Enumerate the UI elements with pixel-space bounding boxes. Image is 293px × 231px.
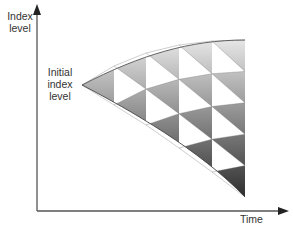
tree-diagram [0, 0, 293, 231]
x-axis-label: Time [240, 213, 263, 225]
y-axis-label: Index level [3, 10, 37, 34]
initial-level-label: Initial index level [40, 66, 80, 102]
x-axis-arrow-icon [278, 207, 289, 215]
price-tree [82, 40, 245, 197]
